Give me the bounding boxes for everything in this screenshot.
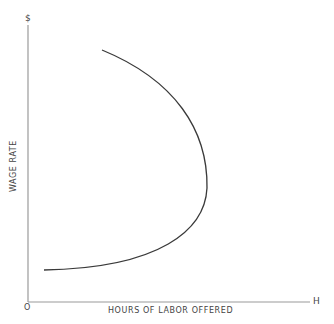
diagram-canvas [0,0,334,324]
y-axis-label: WAGE RATE [9,140,18,192]
y-axis-symbol: $ [25,13,31,23]
x-axis-symbol: H [313,296,320,306]
origin-label: O [24,303,31,312]
x-axis-label: HOURS OF LABOR OFFERED [108,306,233,315]
labor-supply-curve [44,50,207,270]
